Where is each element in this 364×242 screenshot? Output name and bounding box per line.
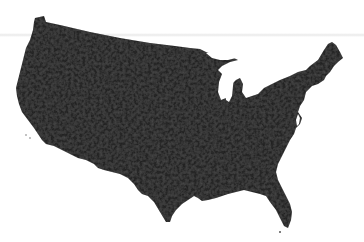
lake-huron-erie [244,76,262,92]
us-map [0,0,364,242]
channel-island-dot [29,137,31,139]
us-map-svg [0,0,364,242]
us-landmass [16,16,343,228]
florida-keys-dot [279,231,281,233]
channel-island-dot [25,134,27,136]
